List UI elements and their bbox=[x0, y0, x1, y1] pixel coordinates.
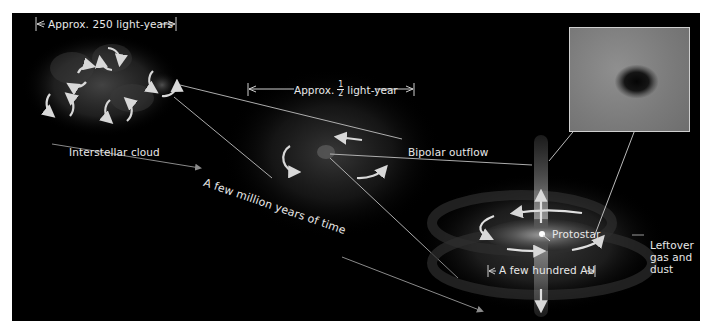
protostar-label: Protostar bbox=[552, 228, 600, 240]
protostar-system bbox=[417, 135, 667, 317]
protostar-photo-inset bbox=[569, 27, 690, 132]
interstellar-cloud-label: Interstellar cloud bbox=[69, 146, 160, 158]
leftover-gas-label: Leftover gas and dust bbox=[650, 239, 694, 275]
interstellar-cloud bbox=[22, 33, 182, 137]
leftover-line-1: Leftover bbox=[650, 239, 694, 251]
leftover-line-3: dust bbox=[650, 263, 694, 275]
leftover-line-2: gas and bbox=[650, 251, 694, 263]
bipolar-outflow-label: Bipolar outflow bbox=[408, 146, 489, 158]
core-scale-prefix: Approx. bbox=[294, 84, 334, 96]
disk-scale-label: A few hundred AU bbox=[499, 264, 595, 276]
core-scale-fraction: 1 2 bbox=[337, 81, 344, 98]
core-scale-label: Approx. 1 2 light-year bbox=[294, 81, 398, 98]
diagram-panel: Approx. 250 light-years Interstellar clo… bbox=[12, 13, 700, 321]
fraction-denominator: 2 bbox=[338, 90, 343, 98]
core-scale-suffix: light-year bbox=[347, 84, 397, 96]
cloud-scale-label: Approx. 250 light-years bbox=[48, 18, 173, 30]
